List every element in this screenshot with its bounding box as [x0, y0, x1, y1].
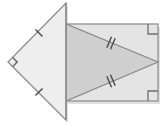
- geometry-diagram: [0, 0, 164, 125]
- figure-container: [0, 0, 164, 125]
